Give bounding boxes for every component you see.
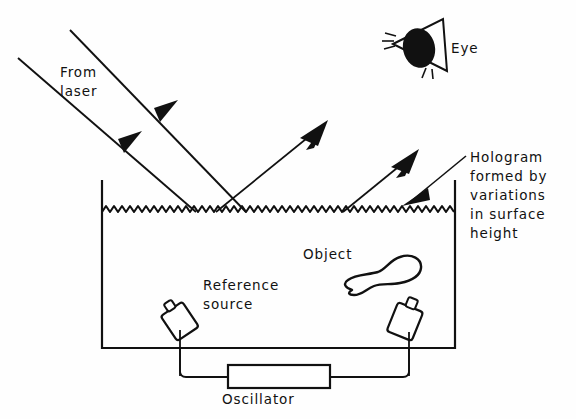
reference-transducer (156, 295, 199, 376)
label-reference-source: Reference source (203, 276, 279, 314)
label-object: Object (303, 245, 352, 263)
label-from-laser: From laser (60, 63, 97, 101)
acoustical-hologram-diagram: From laser Eye Hologram formed by variat… (0, 0, 576, 419)
oscillator-box (228, 365, 330, 388)
reflected-ray-left (216, 120, 328, 212)
incoming-laser-lower-ray (18, 58, 196, 212)
label-hologram: Hologram formed by variations in surface… (470, 148, 547, 243)
object-transducer (387, 294, 427, 376)
incoming-laser-upper-ray (70, 30, 246, 212)
label-oscillator: Oscillator (222, 390, 295, 408)
eye-icon (382, 19, 447, 79)
liquid-surface-hologram (102, 206, 454, 212)
label-eye: Eye (451, 39, 479, 57)
object-blob (345, 256, 421, 295)
